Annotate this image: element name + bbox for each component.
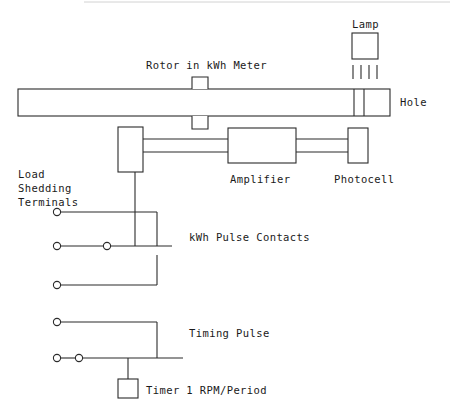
rotor-shaft-bottom xyxy=(192,116,208,129)
timing-terminal-mid[interactable] xyxy=(75,354,82,361)
timing-terminal-left[interactable] xyxy=(53,354,60,361)
timing-terminal-top[interactable] xyxy=(53,318,60,325)
load-shedding-terminal-1[interactable] xyxy=(53,208,60,215)
kwh-contact-terminal-left[interactable] xyxy=(53,242,60,249)
label-load-shedding-line2: Shedding xyxy=(18,182,72,194)
label-kwh-pulse-contacts: kWh Pulse Contacts xyxy=(189,231,310,243)
timer-box xyxy=(118,379,138,398)
kwh-meter-diagram: Lamp Rotor in kWh Meter Hole Amplifier P… xyxy=(0,0,450,418)
label-timing-pulse: Timing Pulse xyxy=(189,327,270,339)
label-photocell: Photocell xyxy=(334,173,395,185)
label-load-shedding-line3: Terminals xyxy=(18,196,79,208)
diagram-canvas: Lamp Rotor in kWh Meter Hole Amplifier P… xyxy=(0,0,450,418)
load-shedding-terminal-2[interactable] xyxy=(53,281,60,288)
label-lamp: Lamp xyxy=(352,18,379,30)
photocell-box xyxy=(348,128,368,163)
rotor-shaft-top xyxy=(192,77,208,89)
lamp-box xyxy=(352,33,378,59)
label-hole: Hole xyxy=(400,96,427,108)
rotor-disc-bar xyxy=(18,89,390,116)
label-load-shedding-line1: Load xyxy=(18,168,45,180)
light-rays-icon xyxy=(353,65,377,79)
kwh-contact-terminal-mid[interactable] xyxy=(103,242,110,249)
amplifier-box xyxy=(228,128,296,163)
label-rotor: Rotor in kWh Meter xyxy=(146,59,267,71)
label-amplifier: Amplifier xyxy=(230,173,291,185)
label-timer: Timer 1 RPM/Period xyxy=(146,384,267,396)
pulse-contact-box xyxy=(118,127,143,172)
